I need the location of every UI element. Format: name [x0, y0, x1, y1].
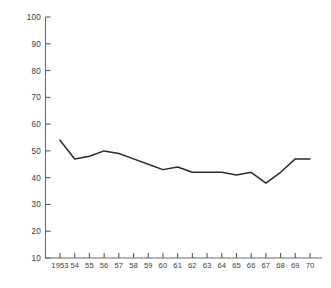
line-chart-figure: 102030405060708090100 195354555657585960… — [0, 0, 331, 288]
y-axis: 102030405060708090100 — [27, 13, 51, 263]
x-axis-tick-label: 58 — [129, 261, 138, 270]
chart-plot-area: 102030405060708090100 195354555657585960… — [0, 0, 331, 288]
data-series-line — [60, 140, 310, 183]
x-axis-tick-label: 66 — [247, 261, 256, 270]
data-series-group — [60, 140, 310, 183]
y-axis-tick-label: 20 — [31, 227, 41, 236]
x-axis-tick-label: 65 — [232, 261, 241, 270]
y-axis-tick-label: 50 — [31, 147, 41, 156]
x-axis-tick-label: 62 — [188, 261, 197, 270]
x-axis-tick-label: 54 — [70, 261, 79, 270]
y-axis-tick-label: 90 — [31, 40, 41, 49]
y-axis-tick-label: 30 — [31, 200, 41, 209]
x-axis-tick-label: 68 — [276, 261, 285, 270]
y-axis-tick-label: 40 — [31, 174, 41, 183]
x-axis-tick-label: 63 — [203, 261, 212, 270]
x-axis-tick-label: 64 — [217, 261, 226, 270]
x-axis-tick-label: 57 — [114, 261, 123, 270]
y-axis-tick-label: 10 — [31, 254, 41, 263]
y-axis-tick-label: 60 — [31, 120, 41, 129]
x-axis-tick-label: 67 — [262, 261, 271, 270]
x-axis-tick-label: 1953 — [51, 261, 68, 270]
y-axis-tick-label: 70 — [31, 93, 41, 102]
x-axis-tick-label: 70 — [306, 261, 315, 270]
x-axis-tick-label: 60 — [159, 261, 168, 270]
x-axis-tick-label: 61 — [173, 261, 182, 270]
x-axis-tick-label: 56 — [100, 261, 109, 270]
y-axis-tick-label: 80 — [31, 67, 41, 76]
x-axis-tick-label: 69 — [291, 261, 300, 270]
x-axis-tick-label: 55 — [85, 261, 94, 270]
x-axis-tick-label: 59 — [144, 261, 153, 270]
x-axis: 19535455565758596061626364656667686970 — [46, 253, 323, 270]
y-axis-tick-label: 100 — [27, 13, 42, 22]
